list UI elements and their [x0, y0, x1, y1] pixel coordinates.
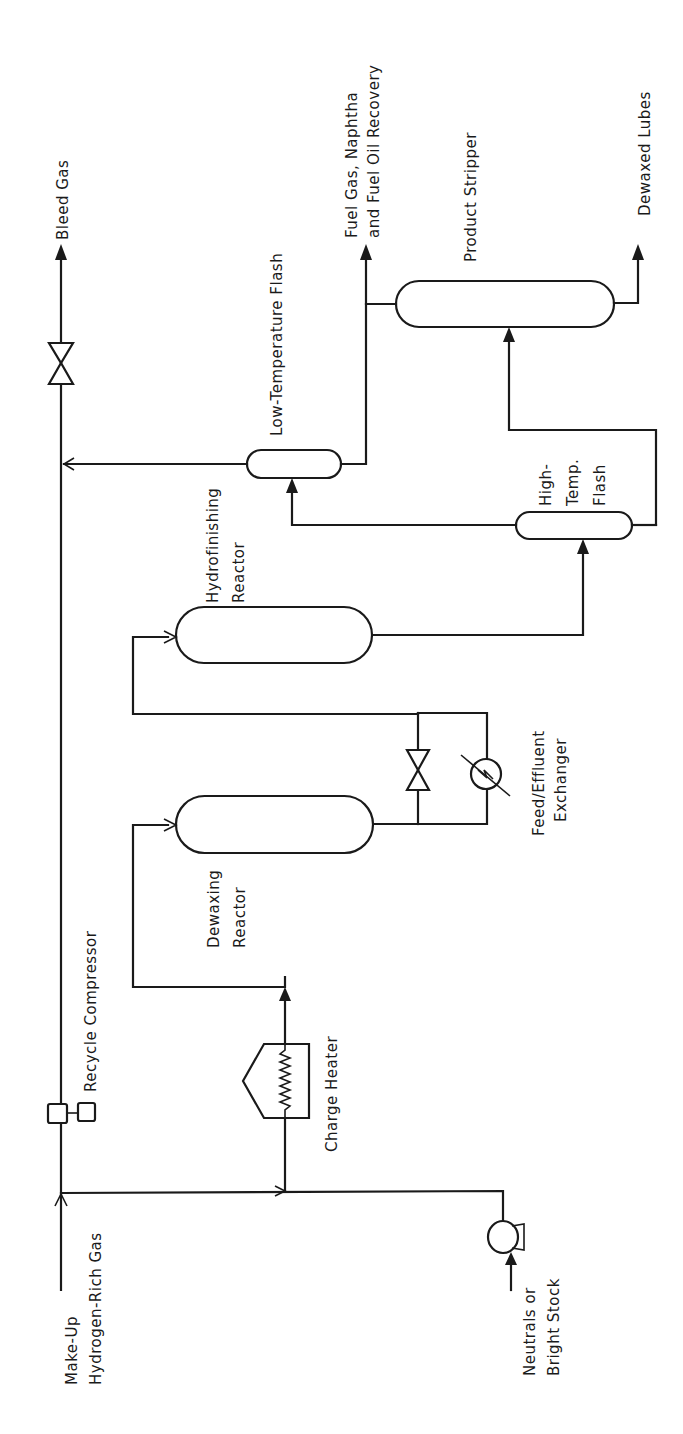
- hydrofinishing-reactor-label-line1: Hydrofinishing: [204, 488, 222, 603]
- pump-inlet-arrow-icon: [505, 1252, 517, 1265]
- recycle-gas-header: [55, 244, 67, 1290]
- fuel-gas-label-line1: Fuel Gas, Naphtha: [343, 92, 361, 238]
- charge-heater-icon: [243, 987, 309, 1191]
- feed-pump-icon: [488, 1221, 524, 1290]
- hydrofinishing-reactor-label-line2: Reactor: [230, 542, 248, 603]
- product-stripper-label: Product Stripper: [462, 132, 480, 262]
- exchanger-label-line1: Feed/Effluent: [530, 730, 548, 836]
- bleed-gas-arrow-icon: [55, 244, 67, 260]
- stripper-feed-arrow-icon: [503, 327, 515, 342]
- process-flow-diagram: Bleed Gas Fuel Gas, Naphtha and Fuel Oil…: [0, 0, 683, 1434]
- recycle-compressor-label: Recycle Compressor: [82, 930, 100, 1092]
- charge-heater-label: Charge Heater: [323, 1036, 341, 1152]
- exchanger-bypass-loop: [373, 713, 487, 824]
- ltf-feed-arrow-icon: [286, 478, 298, 493]
- fuel-gas-arrow-icon: [360, 244, 372, 260]
- makeup-gas-label-line2: Hydrogen-Rich Gas: [87, 1232, 105, 1385]
- recycle-compressor-icon: [48, 1103, 95, 1123]
- dewaxed-lubes-arrow-icon: [632, 244, 644, 260]
- fuel-gas-label-line2: and Fuel Oil Recovery: [365, 65, 383, 238]
- dewaxing-reactor: [133, 796, 373, 987]
- high-temp-flash-label-line2: Temp.: [564, 459, 582, 507]
- exchanger-label-line2: Exchanger: [552, 738, 570, 822]
- bleed-gas-label: Bleed Gas: [54, 160, 72, 240]
- dewaxing-reactor-label-line2: Reactor: [231, 887, 249, 948]
- bleed-gas-valve-icon: [49, 343, 73, 384]
- makeup-gas-label-line1: Make-Up: [63, 1316, 81, 1385]
- htf-feed-arrow-icon: [577, 539, 589, 554]
- dewaxing-reactor-label-line1: Dewaxing: [205, 870, 223, 948]
- product-stripper: [366, 244, 656, 525]
- hydrofinishing-reactor: [133, 607, 418, 714]
- bypass-valve-icon: [407, 750, 429, 790]
- feed-header: [61, 1186, 503, 1222]
- high-temp-flash-label-line1: High-: [537, 464, 555, 506]
- low-temperature-flash-drum: [64, 244, 372, 478]
- dewaxed-lubes-label: Dewaxed Lubes: [636, 91, 654, 216]
- high-temp-flash-label-line3: Flash: [591, 464, 609, 506]
- heater-outlet-arrow-icon: [279, 987, 291, 1001]
- low-temperature-flash-label: Low-Temperature Flash: [268, 253, 286, 436]
- heat-exchanger-icon: [461, 755, 510, 796]
- feed-label-line2: Bright Stock: [545, 1278, 563, 1376]
- feed-label-line1: Neutrals or: [521, 1287, 539, 1376]
